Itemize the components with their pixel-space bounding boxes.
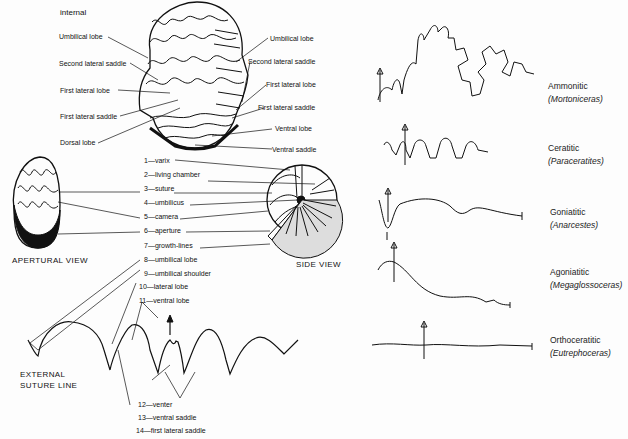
- label-second-lateral-saddle-right: Second lateral saddle: [248, 58, 315, 65]
- label-suture: 3—suture: [144, 185, 174, 192]
- label-ventral-lobe-11: 11—ventral lobe: [139, 297, 189, 304]
- label-dorsal-lobe: Dorsal lobe: [60, 139, 95, 146]
- label-umbilical-shoulder: 9—umbilical shoulder: [144, 270, 211, 277]
- label-umbilical-lobe-right: Umbilical lobe: [270, 35, 314, 42]
- ceratitic-suture: [384, 124, 488, 165]
- suture-type-goniatitic: Goniatitic (Anarcestes): [550, 206, 598, 232]
- type-name: Agoniatitic: [550, 266, 622, 279]
- label-ventral-saddle-13: 13—ventral saddle: [138, 414, 196, 421]
- label-ventral-lobe: Ventral lobe: [275, 125, 312, 132]
- label-first-lateral-lobe-left: First lateral lobe: [60, 87, 110, 94]
- label-ventral-saddle: Ventral saddle: [272, 146, 316, 153]
- external-caption-line2: SUTURE LINE: [20, 381, 77, 390]
- label-living-chamber: 2—living chamber: [144, 171, 200, 178]
- suture-type-orthoceratitic: Orthoceratitic (Eutrephoceras): [550, 334, 611, 360]
- type-name: Ammonitic: [548, 80, 603, 93]
- type-name: Goniatitic: [550, 206, 598, 219]
- suture-type-agoniatitic: Agoniatitic (Megaglossoceras): [550, 266, 622, 292]
- suture-type-ceratitic: Ceratitic (Paraceratites): [548, 142, 604, 168]
- label-first-lateral-saddle-right: First lateral saddle: [258, 104, 315, 111]
- apertural-view-caption: APERTURAL VIEW: [12, 256, 88, 265]
- internal-leader-lines: [98, 37, 272, 149]
- label-umbilical-lobe-left: Umbilical lobe: [59, 33, 103, 40]
- type-genus: (Anarcestes): [550, 219, 598, 232]
- type-genus: (Paraceratites): [548, 155, 604, 168]
- label-first-lateral-lobe-right: First lateral lobe: [266, 81, 316, 88]
- label-camera: 5—camera: [144, 213, 178, 220]
- internal-shell-drawing: [139, 2, 248, 149]
- type-genus: (Mortoniceras): [548, 93, 603, 106]
- external-caption-line1: EXTERNAL: [20, 370, 65, 379]
- label-first-lateral-saddle-left: First lateral saddle: [60, 113, 117, 120]
- type-name: Orthoceratitic: [550, 334, 611, 347]
- label-varix: 1—varix: [144, 157, 170, 164]
- side-view-drawing: [267, 165, 343, 258]
- goniatitic-suture: [379, 188, 522, 240]
- type-genus: (Eutrephoceras): [550, 347, 611, 360]
- label-umbilicus: 4—umbilicus: [144, 199, 184, 206]
- internal-heading: internal: [60, 9, 86, 17]
- label-venter: 12—venter: [138, 401, 172, 408]
- label-umbilical-lobe-8: 8—umbilical lobe: [144, 256, 197, 263]
- label-second-lateral-saddle-left: Second lateral saddle: [59, 60, 126, 67]
- side-view-caption: SIDE VIEW: [296, 260, 341, 269]
- label-lateral-lobe: 10—lateral lobe: [139, 283, 188, 290]
- label-aperture: 6—aperture: [144, 227, 181, 234]
- type-genus: (Megaglossoceras): [550, 279, 622, 292]
- agoniatitic-suture: [378, 242, 510, 308]
- label-first-lateral-saddle-14: 14—first lateral saddle: [136, 427, 206, 434]
- apertural-view-drawing: [13, 157, 60, 248]
- type-name: Ceratitic: [548, 142, 604, 155]
- orthoceratitic-suture: [372, 321, 532, 359]
- ammonitic-suture: [377, 26, 534, 102]
- suture-type-ammonitic: Ammonitic (Mortoniceras): [548, 80, 603, 106]
- label-growth-lines: 7—growth-lines: [144, 242, 193, 249]
